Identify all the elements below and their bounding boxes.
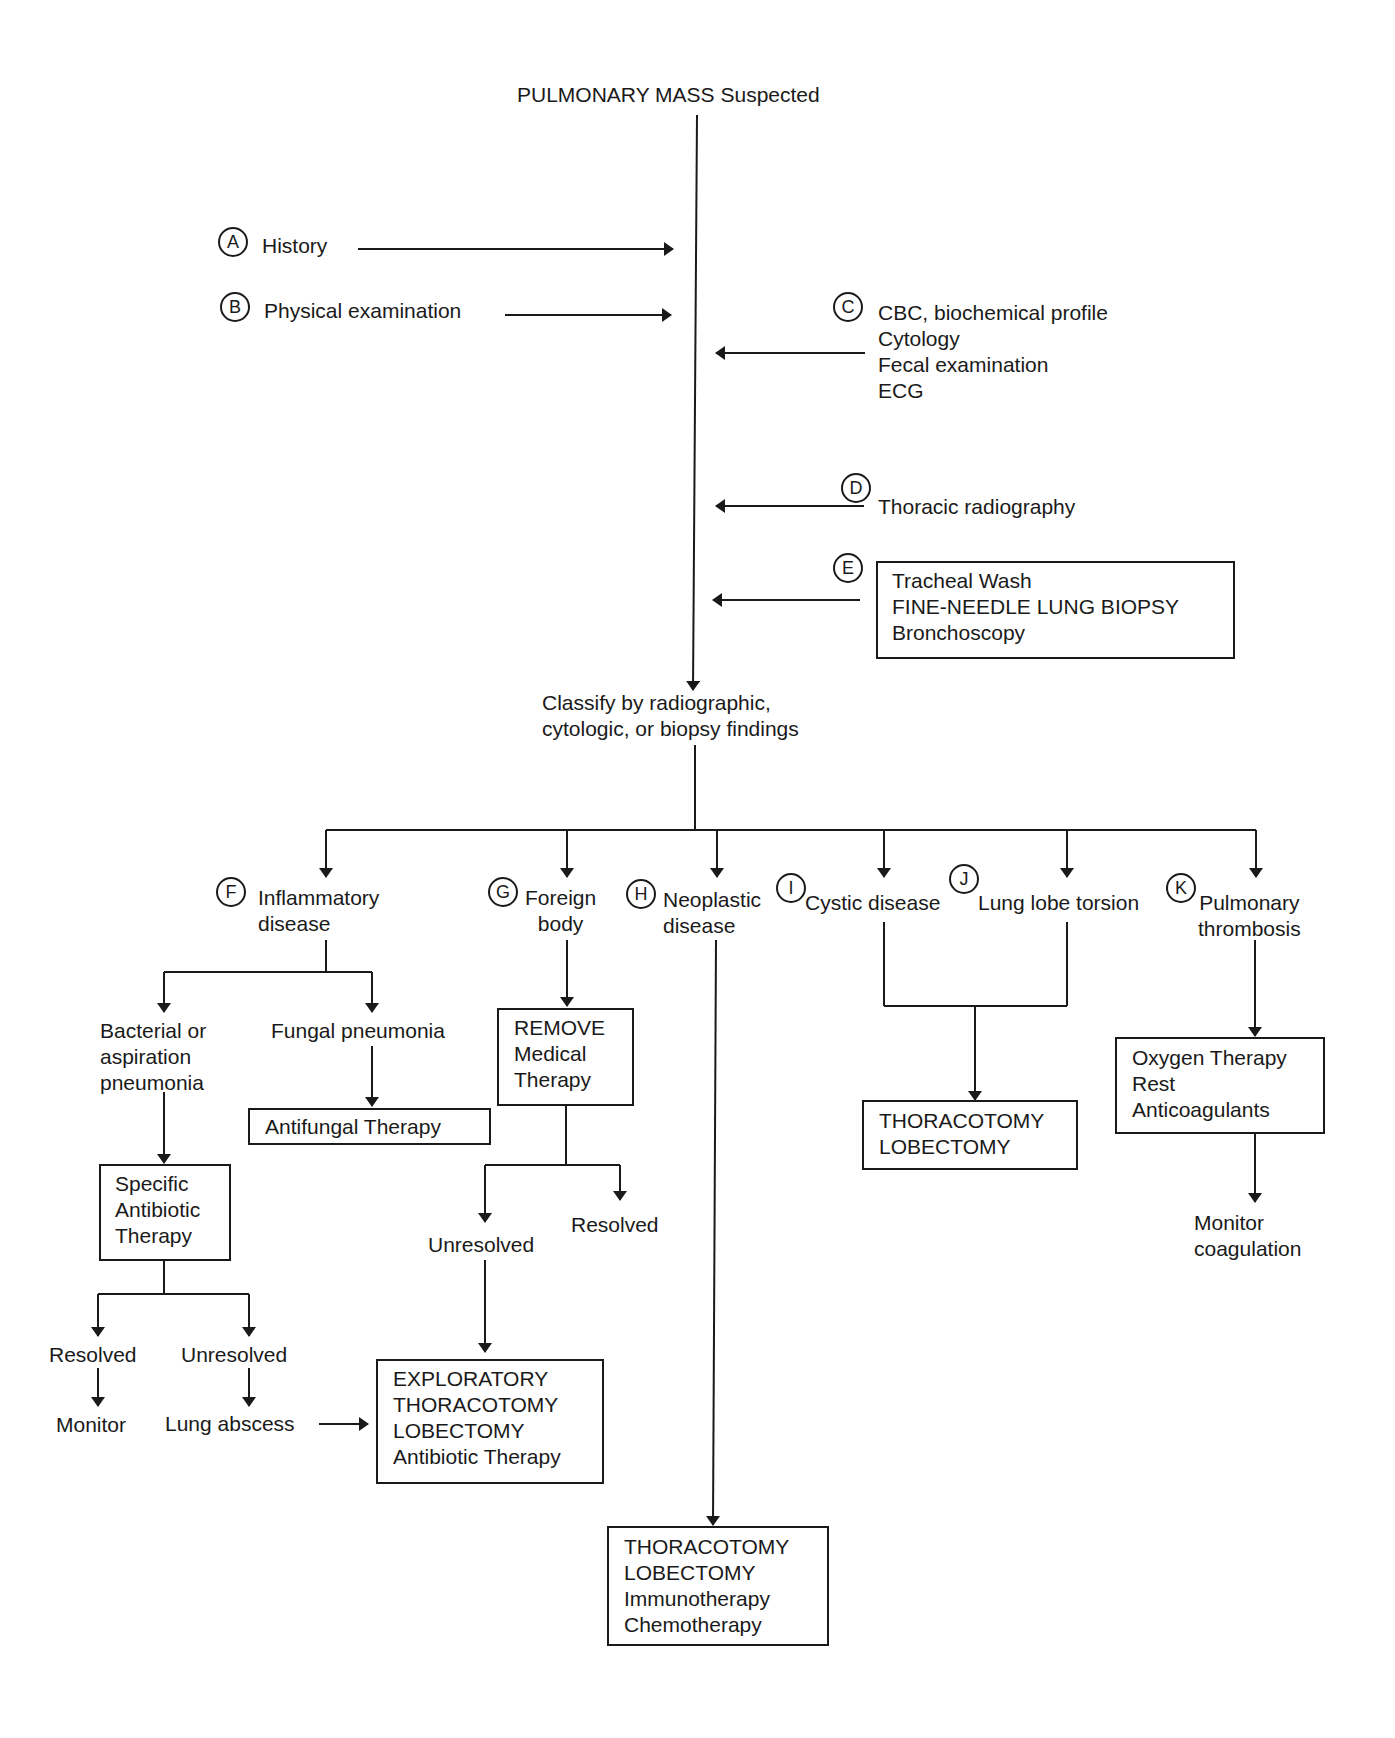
antifungal-therapy-box: Antifungal Therapy: [248, 1108, 491, 1145]
category-line: Pulmonary: [1198, 890, 1301, 916]
box-line: Rest: [1132, 1071, 1323, 1097]
lab-test-item: Cytology: [878, 326, 1108, 352]
inflammatory-disease-label: Inflammatory disease: [258, 885, 379, 937]
connector-lines: [0, 0, 1395, 1738]
step-marker-f: F: [216, 877, 246, 907]
box-line: REMOVE: [514, 1015, 632, 1041]
monitor-label: Monitor: [56, 1412, 126, 1438]
box-line: Specific: [115, 1171, 229, 1197]
biopsy-procedures-box: Tracheal Wash FINE-NEEDLE LUNG BIOPSY Br…: [876, 561, 1235, 659]
lab-test-item: ECG: [878, 378, 1108, 404]
classify-line: cytologic, or biopsy findings: [542, 716, 799, 742]
category-line: disease: [258, 911, 379, 937]
box-line: LOBECTOMY: [624, 1560, 827, 1586]
step-marker-k: K: [1166, 873, 1196, 903]
thoracotomy-lobectomy-box: THORACOTOMY LOBECTOMY: [862, 1100, 1078, 1170]
oxygen-therapy-box: Oxygen Therapy Rest Anticoagulants: [1115, 1037, 1325, 1134]
lab-tests-list: CBC, biochemical profile Cytology Fecal …: [878, 300, 1108, 404]
category-line: Neoplastic: [663, 887, 761, 913]
label-line: Bacterial or: [100, 1018, 206, 1044]
antibiotic-therapy-box: Specific Antibiotic Therapy: [99, 1164, 231, 1261]
classify-label: Classify by radiographic, cytologic, or …: [542, 690, 799, 742]
procedure-item: Tracheal Wash: [892, 568, 1233, 594]
procedure-item: Bronchoscopy: [892, 620, 1233, 646]
box-line: Oxygen Therapy: [1132, 1045, 1323, 1071]
flowchart-title: PULMONARY MASS Suspected: [517, 82, 820, 108]
label-line: Monitor: [1194, 1210, 1301, 1236]
unresolved-label: Unresolved: [428, 1232, 534, 1258]
neoplastic-treatment-box: THORACOTOMY LOBECTOMY Immunotherapy Chem…: [607, 1526, 829, 1646]
procedure-item: FINE-NEEDLE LUNG BIOPSY: [892, 594, 1233, 620]
box-line: LOBECTOMY: [393, 1418, 602, 1444]
label-line: aspiration: [100, 1044, 206, 1070]
category-line: thrombosis: [1198, 916, 1301, 942]
lung-lobe-torsion-label: Lung lobe torsion: [978, 890, 1139, 916]
history-label: History: [262, 233, 327, 259]
step-marker-c: C: [833, 292, 863, 322]
category-line: Inflammatory: [258, 885, 379, 911]
cystic-disease-label: Cystic disease: [805, 890, 940, 916]
exploratory-thoracotomy-box: EXPLORATORY THORACOTOMY LOBECTOMY Antibi…: [376, 1359, 604, 1484]
radiography-label: Thoracic radiography: [878, 494, 1075, 520]
box-line: EXPLORATORY: [393, 1366, 602, 1392]
foreign-body-label: Foreign body: [525, 885, 596, 937]
step-marker-e: E: [833, 553, 863, 583]
step-marker-b: B: [220, 292, 250, 322]
step-marker-d: D: [841, 473, 871, 503]
category-line: disease: [663, 913, 761, 939]
box-line: Therapy: [514, 1067, 632, 1093]
bacterial-pneumonia-label: Bacterial or aspiration pneumonia: [100, 1018, 206, 1096]
label-line: pneumonia: [100, 1070, 206, 1096]
box-line: Therapy: [115, 1223, 229, 1249]
box-line: Anticoagulants: [1132, 1097, 1323, 1123]
category-line: body: [525, 911, 596, 937]
fungal-pneumonia-label: Fungal pneumonia: [271, 1018, 445, 1044]
label-line: coagulation: [1194, 1236, 1301, 1262]
step-marker-h: H: [626, 879, 656, 909]
resolved-label: Resolved: [49, 1342, 137, 1368]
lung-abscess-label: Lung abscess: [165, 1411, 295, 1437]
step-marker-a: A: [218, 227, 248, 257]
pulmonary-thrombosis-label: Pulmonary thrombosis: [1198, 890, 1301, 942]
monitor-coagulation-label: Monitor coagulation: [1194, 1210, 1301, 1262]
box-line: THORACOTOMY: [624, 1534, 827, 1560]
step-marker-j: J: [949, 864, 979, 894]
neoplastic-disease-label: Neoplastic disease: [663, 887, 761, 939]
box-line: THORACOTOMY: [393, 1392, 602, 1418]
box-line: Immunotherapy: [624, 1586, 827, 1612]
resolved-label: Resolved: [571, 1212, 659, 1238]
physical-exam-label: Physical examination: [264, 298, 461, 324]
category-line: Foreign: [525, 885, 596, 911]
box-line: Antibiotic: [115, 1197, 229, 1223]
box-line: LOBECTOMY: [879, 1134, 1076, 1160]
step-marker-i: I: [776, 873, 806, 903]
step-marker-g: G: [488, 877, 518, 907]
unresolved-label: Unresolved: [181, 1342, 287, 1368]
box-line: Medical: [514, 1041, 632, 1067]
classify-line: Classify by radiographic,: [542, 690, 799, 716]
lab-test-item: CBC, biochemical profile: [878, 300, 1108, 326]
box-line: Chemotherapy: [624, 1612, 827, 1638]
box-line: THORACOTOMY: [879, 1108, 1076, 1134]
remove-therapy-box: REMOVE Medical Therapy: [497, 1008, 634, 1106]
box-line: Antibiotic Therapy: [393, 1444, 602, 1470]
lab-test-item: Fecal examination: [878, 352, 1108, 378]
